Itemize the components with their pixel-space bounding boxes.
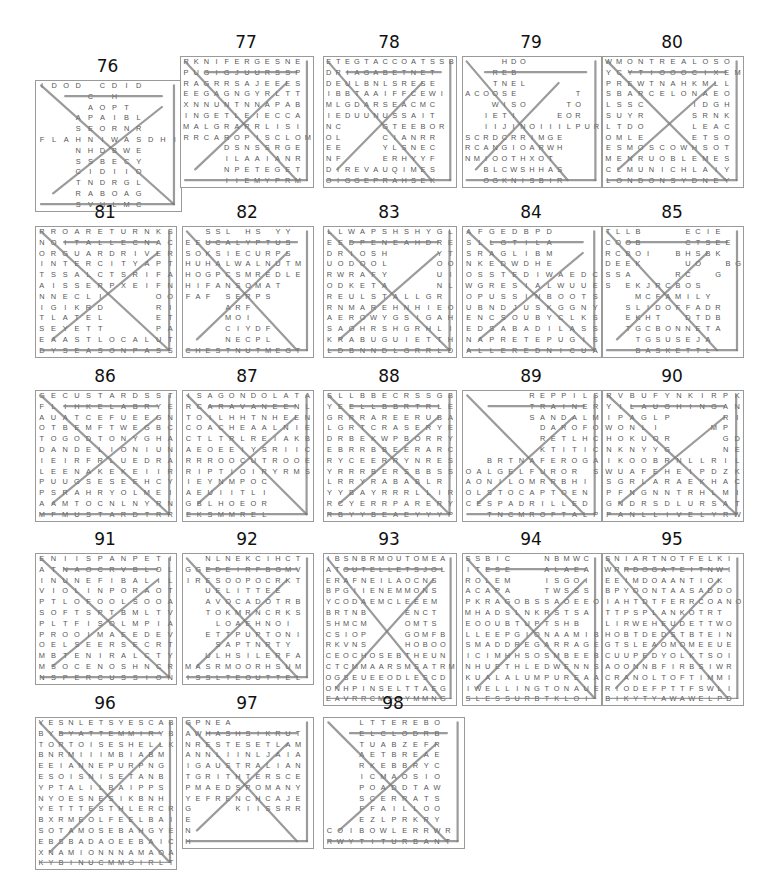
- grid-letter[interactable]: T: [558, 510, 569, 521]
- grid-letter[interactable]: B: [106, 783, 116, 794]
- grid-letter[interactable]: E: [136, 740, 146, 751]
- grid-letter[interactable]: H: [253, 794, 263, 805]
- grid-letter[interactable]: [732, 111, 743, 122]
- grid-letter[interactable]: N: [612, 554, 621, 565]
- grid-letter[interactable]: O: [233, 313, 243, 324]
- grid-letter[interactable]: M: [603, 154, 614, 165]
- grid-letter[interactable]: [335, 804, 346, 815]
- grid-letter[interactable]: R: [333, 68, 342, 79]
- grid-letter[interactable]: T: [527, 402, 538, 413]
- grid-letter[interactable]: [193, 804, 203, 815]
- grid-letter[interactable]: A: [76, 729, 86, 740]
- grid-letter[interactable]: I: [537, 499, 548, 510]
- grid-letter[interactable]: O: [153, 565, 165, 576]
- grid-letter[interactable]: [303, 761, 313, 772]
- grid-letter[interactable]: Y: [346, 510, 357, 521]
- grid-letter[interactable]: [555, 238, 567, 249]
- grid-letter[interactable]: O: [205, 445, 216, 456]
- grid-letter[interactable]: R: [552, 640, 562, 651]
- grid-letter[interactable]: N: [201, 57, 211, 68]
- grid-letter[interactable]: [193, 313, 203, 324]
- grid-letter[interactable]: R: [357, 413, 368, 424]
- grid-letter[interactable]: G: [562, 576, 572, 587]
- grid-letter[interactable]: E: [711, 89, 722, 100]
- grid-letter[interactable]: U: [253, 249, 263, 260]
- grid-letter[interactable]: A: [502, 673, 512, 684]
- grid-letter[interactable]: [141, 292, 153, 303]
- grid-letter[interactable]: L: [544, 281, 556, 292]
- grid-letter[interactable]: M: [129, 608, 141, 619]
- grid-letter[interactable]: F: [638, 467, 650, 478]
- grid-letter[interactable]: Y: [409, 154, 418, 165]
- grid-letter[interactable]: [145, 146, 157, 157]
- grid-letter[interactable]: [578, 238, 590, 249]
- grid-letter[interactable]: B: [673, 281, 683, 292]
- grid-letter[interactable]: T: [59, 259, 71, 270]
- grid-letter[interactable]: [283, 313, 293, 324]
- grid-letter[interactable]: C: [473, 651, 483, 662]
- grid-letter[interactable]: R: [83, 673, 95, 684]
- grid-letter[interactable]: [733, 346, 743, 357]
- grid-letter[interactable]: I: [66, 858, 76, 869]
- grid-letter[interactable]: N: [86, 761, 96, 772]
- grid-letter[interactable]: R: [108, 124, 120, 135]
- grid-letter[interactable]: L: [333, 100, 342, 111]
- grid-letter[interactable]: [734, 640, 743, 651]
- grid-letter[interactable]: I: [141, 445, 153, 456]
- grid-letter[interactable]: L: [564, 122, 573, 133]
- grid-letter[interactable]: N: [484, 477, 495, 488]
- grid-letter[interactable]: [213, 826, 223, 837]
- grid-letter[interactable]: I: [94, 651, 106, 662]
- grid-letter[interactable]: C: [263, 794, 273, 805]
- grid-letter[interactable]: M: [403, 586, 412, 597]
- grid-letter[interactable]: [438, 576, 447, 587]
- grid-letter[interactable]: L: [567, 313, 579, 324]
- grid-letter[interactable]: A: [368, 413, 379, 424]
- grid-letter[interactable]: E: [581, 651, 591, 662]
- grid-letter[interactable]: S: [603, 111, 614, 122]
- grid-letter[interactable]: Q: [390, 165, 399, 176]
- grid-letter[interactable]: E: [215, 445, 226, 456]
- grid-letter[interactable]: G: [343, 176, 352, 187]
- grid-letter[interactable]: N: [657, 176, 668, 187]
- grid-letter[interactable]: A: [203, 783, 213, 794]
- grid-letter[interactable]: R: [146, 729, 156, 740]
- grid-letter[interactable]: O: [412, 586, 421, 597]
- grid-letter[interactable]: L: [668, 89, 679, 100]
- grid-letter[interactable]: O: [518, 57, 527, 68]
- grid-letter[interactable]: R: [423, 423, 434, 434]
- grid-letter[interactable]: D: [516, 499, 527, 510]
- grid-letter[interactable]: T: [263, 630, 273, 641]
- grid-letter[interactable]: [713, 281, 723, 292]
- grid-letter[interactable]: E: [270, 402, 281, 413]
- grid-letter[interactable]: N: [302, 413, 313, 424]
- grid-letter[interactable]: T: [509, 154, 518, 165]
- grid-letter[interactable]: [293, 313, 303, 324]
- grid-letter[interactable]: H: [678, 79, 689, 90]
- grid-letter[interactable]: S: [423, 391, 434, 402]
- grid-letter[interactable]: P: [36, 488, 48, 499]
- grid-letter[interactable]: C: [243, 335, 253, 346]
- grid-letter[interactable]: R: [213, 662, 223, 673]
- grid-letter[interactable]: O: [153, 673, 165, 684]
- grid-letter[interactable]: I: [59, 303, 71, 314]
- grid-letter[interactable]: R: [434, 499, 445, 510]
- grid-letter[interactable]: [203, 313, 213, 324]
- grid-letter[interactable]: M: [293, 740, 303, 751]
- grid-letter[interactable]: B: [156, 772, 166, 783]
- grid-letter[interactable]: [283, 815, 293, 826]
- grid-letter[interactable]: E: [403, 597, 412, 608]
- grid-letter[interactable]: [724, 576, 733, 587]
- grid-letter[interactable]: S: [473, 554, 483, 565]
- grid-letter[interactable]: Y: [434, 423, 445, 434]
- grid-letter[interactable]: D: [335, 346, 346, 357]
- grid-letter[interactable]: T: [706, 619, 715, 630]
- grid-letter[interactable]: E: [571, 673, 581, 684]
- grid-letter[interactable]: E: [233, 335, 243, 346]
- grid-letter[interactable]: X: [181, 100, 191, 111]
- grid-letter[interactable]: O: [659, 640, 668, 651]
- grid-letter[interactable]: I: [183, 761, 193, 772]
- grid-letter[interactable]: A: [205, 423, 216, 434]
- grid-letter[interactable]: O: [678, 89, 689, 100]
- grid-letter[interactable]: I: [233, 586, 243, 597]
